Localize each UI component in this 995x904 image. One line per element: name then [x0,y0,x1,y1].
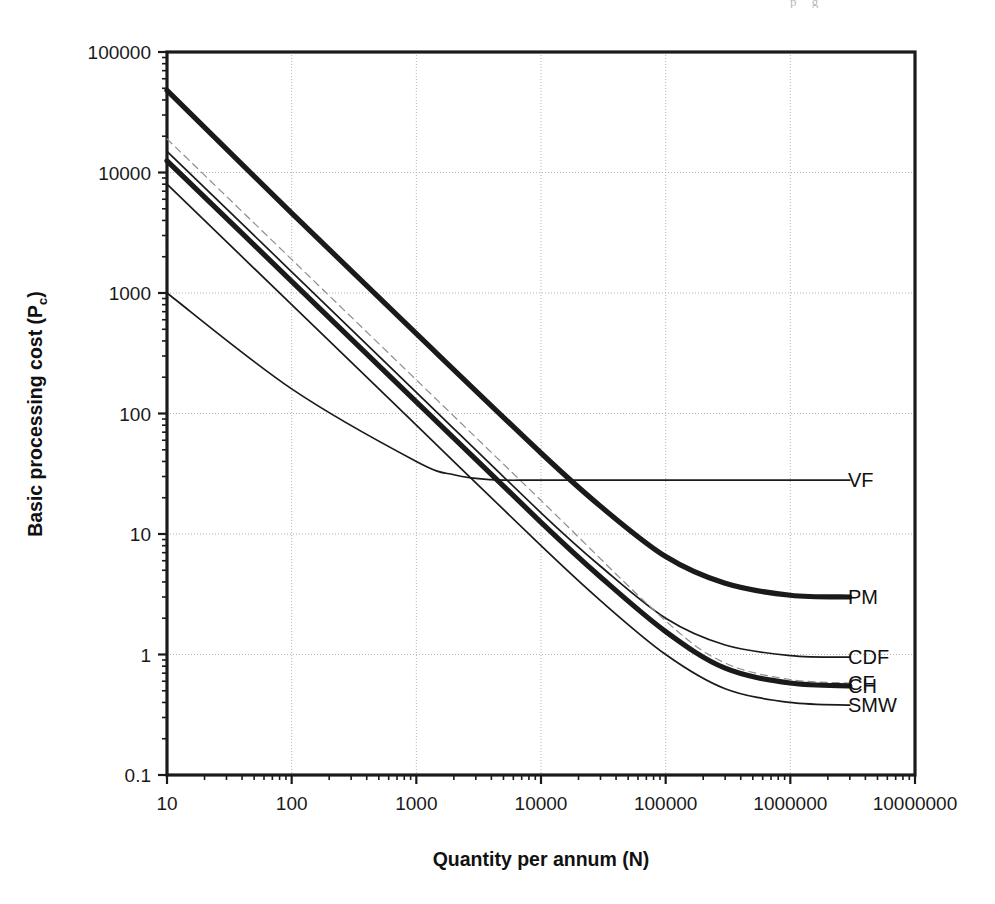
y-tick-label: 1000 [109,283,151,304]
log-log-cost-chart: PMCDFCFCHSMWVF 1010010001000010000010000… [0,0,995,904]
x-axis-title: Quantity per annum (N) [433,848,650,870]
series-curve-cf [167,139,850,683]
chart-page: p g PMCDFCFCHSMWVF 101001000100001000001… [0,0,995,904]
x-tick-label: 10000000 [873,793,958,814]
y-axis-title-main: Basic processing cost (P [24,305,46,537]
x-tick-label: 10000 [515,793,568,814]
series-label-cdf: CDF [848,646,889,668]
y-tick-label: 10000 [98,163,151,184]
series-labels-group: PMCDFCFCHSMWVF [848,469,897,716]
y-tick-labels-group: 0.1110100100010000100000 [88,42,151,786]
y-tick-label: 100000 [88,42,151,63]
x-tick-label: 1000000 [753,793,827,814]
axis-ticks-group [158,52,915,784]
series-label-smw: SMW [848,694,897,716]
x-tick-label: 100 [276,793,308,814]
series-curve-pm [167,90,850,597]
y-tick-label: 1 [140,645,151,666]
chart-canvas: PMCDFCFCHSMWVF 1010010001000010000010000… [0,0,995,904]
series-curves-group [167,90,850,705]
y-axis-title-close: ) [24,291,46,298]
y-tick-label: 0.1 [125,765,151,786]
x-tick-label: 100000 [634,793,697,814]
series-curve-vf [167,293,850,480]
y-axis-title: Basic processing cost (Pc) [24,291,50,537]
x-tick-label: 10 [156,793,177,814]
y-axis-title-group: Basic processing cost (Pc) [24,291,50,537]
series-curve-cdf [167,151,850,657]
series-label-pm: PM [848,586,878,608]
x-tick-labels-group: 10100100010000100000100000010000000 [156,793,957,814]
series-label-vf: VF [848,469,874,491]
y-tick-label: 100 [119,404,151,425]
gridlines-group [167,52,915,775]
y-tick-label: 10 [130,524,151,545]
y-axis-title-subscript: c [35,298,50,305]
x-tick-label: 1000 [395,793,437,814]
